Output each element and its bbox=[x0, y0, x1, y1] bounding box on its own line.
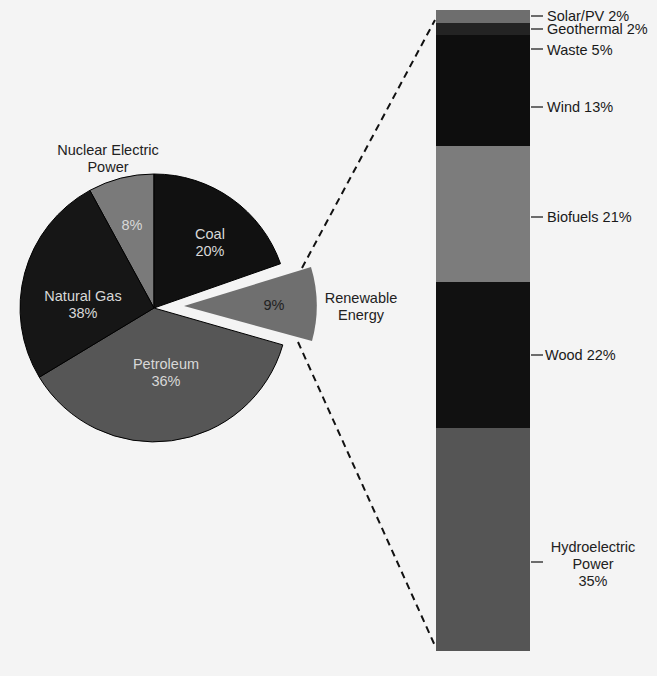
label-nuclear-title: Nuclear Electric Power bbox=[48, 142, 168, 176]
label-nuclear-line1: Nuclear Electric bbox=[48, 142, 168, 159]
label-petroleum-name: Petroleum bbox=[116, 356, 216, 373]
label-natural-gas: Natural Gas 38% bbox=[33, 288, 133, 322]
label-wood: Wood 22% bbox=[545, 347, 616, 364]
label-hydro-line1: Hydroelectric bbox=[543, 539, 643, 556]
label-gas-name: Natural Gas bbox=[33, 288, 133, 305]
bar-segment-biofuels bbox=[436, 146, 530, 282]
label-nuclear-pct: 8% bbox=[112, 217, 152, 234]
label-nuclear-line2: Power bbox=[48, 159, 168, 176]
label-hydro: Hydroelectric Power 35% bbox=[543, 539, 643, 590]
label-renewable-pct: 9% bbox=[256, 297, 292, 314]
label-renewable-energy: Renewable Energy bbox=[316, 290, 406, 324]
renewable-stacked-bar bbox=[436, 10, 530, 651]
connector-line-top bbox=[302, 20, 435, 268]
bar-label-ticks bbox=[531, 16, 543, 562]
connector-line-bottom bbox=[298, 342, 436, 648]
label-coal-name: Coal bbox=[180, 226, 240, 243]
label-coal: Coal 20% bbox=[180, 226, 240, 260]
label-waste: Waste 5% bbox=[547, 42, 613, 59]
bar-segment-geothermal bbox=[436, 23, 530, 35]
bar-segment-waste bbox=[436, 35, 530, 67]
label-hydro-line3: 35% bbox=[543, 573, 643, 590]
label-wind: Wind 13% bbox=[547, 99, 613, 116]
bar-segment-wind bbox=[436, 67, 530, 146]
label-geothermal: Geothermal 2% bbox=[547, 21, 648, 38]
label-renewable-line1: Renewable bbox=[316, 290, 406, 307]
label-biofuels: Biofuels 21% bbox=[547, 209, 632, 226]
label-coal-pct: 20% bbox=[180, 243, 240, 260]
bar-segment-hydro bbox=[436, 428, 530, 651]
label-petroleum-pct: 36% bbox=[116, 373, 216, 390]
label-hydro-line2: Power bbox=[543, 556, 643, 573]
label-renewable-line2: Energy bbox=[316, 307, 406, 324]
bar-segment-wood bbox=[436, 282, 530, 428]
bar-segment-solar bbox=[436, 10, 530, 23]
label-gas-pct: 38% bbox=[33, 305, 133, 322]
label-petroleum: Petroleum 36% bbox=[116, 356, 216, 390]
